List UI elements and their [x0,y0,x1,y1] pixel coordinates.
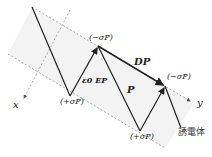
bottom-right-charge-label: (+σP) [130,133,154,141]
top-right-charge-label: (−σP) [167,73,191,81]
polarization-label: P [127,85,135,95]
diagram-canvas: x y (−σP) (−σP) (+σP) (+σP) ε0 EP P DP 誘… [0,0,212,157]
dielectric-label: 誘電体 [178,128,205,137]
top-left-charge-label: (−σP) [89,34,113,42]
bottom-left-charge-label: (+σP) [60,98,84,106]
y-axis-label: y [197,98,203,108]
field-label: ε0 EP [82,76,107,84]
displacement-label: DP [134,57,150,67]
x-axis-label: x [13,100,19,110]
